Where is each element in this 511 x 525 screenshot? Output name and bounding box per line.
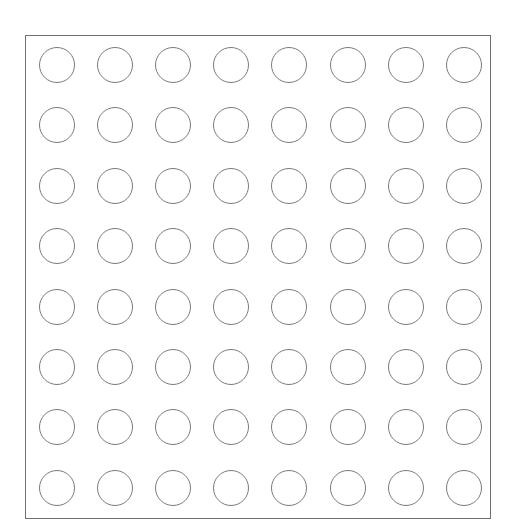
grid-cell-r2-c7[interactable] [388, 107, 424, 143]
grid-cell-r5-c4[interactable] [213, 289, 249, 325]
grid-cell-r8-c2[interactable] [97, 470, 133, 506]
grid-cell-r5-c2[interactable] [97, 289, 133, 325]
grid-cell-r1-c3[interactable] [155, 47, 191, 83]
grid-cell-r7-c5[interactable] [271, 409, 307, 445]
grid-cell-r4-c8[interactable] [446, 228, 482, 264]
grid-cell-r2-c8[interactable] [446, 107, 482, 143]
grid-cell-r6-c1[interactable] [39, 349, 75, 385]
grid-cell-r8-c4[interactable] [213, 470, 249, 506]
grid-cell-r4-c6[interactable] [330, 228, 366, 264]
grid-cell-r3-c6[interactable] [330, 168, 366, 204]
grid-cell-r7-c1[interactable] [39, 409, 75, 445]
grid-cell-r7-c8[interactable] [446, 409, 482, 445]
grid-cell-r7-c7[interactable] [388, 409, 424, 445]
grid-cell-r1-c6[interactable] [330, 47, 366, 83]
grid-cell-r4-c4[interactable] [213, 228, 249, 264]
grid-cell-r3-c8[interactable] [446, 168, 482, 204]
grid-cell-r4-c5[interactable] [271, 228, 307, 264]
grid-cell-r6-c3[interactable] [155, 349, 191, 385]
grid-cell-r6-c4[interactable] [213, 349, 249, 385]
grid-cell-r3-c4[interactable] [213, 168, 249, 204]
grid-cell-r1-c4[interactable] [213, 47, 249, 83]
grid-cell-r4-c3[interactable] [155, 228, 191, 264]
grid-cell-r1-c2[interactable] [97, 47, 133, 83]
grid-cell-r8-c3[interactable] [155, 470, 191, 506]
grid-cell-r6-c6[interactable] [330, 349, 366, 385]
grid-cell-r2-c4[interactable] [213, 107, 249, 143]
grid-cell-r8-c5[interactable] [271, 470, 307, 506]
grid-cell-r5-c3[interactable] [155, 289, 191, 325]
grid-cell-r3-c7[interactable] [388, 168, 424, 204]
grid-cell-r7-c2[interactable] [97, 409, 133, 445]
grid-cell-r8-c8[interactable] [446, 470, 482, 506]
grid-cell-r1-c7[interactable] [388, 47, 424, 83]
grid-cell-r5-c5[interactable] [271, 289, 307, 325]
grid-cell-r4-c7[interactable] [388, 228, 424, 264]
grid-cell-r7-c6[interactable] [330, 409, 366, 445]
grid-cell-r3-c5[interactable] [271, 168, 307, 204]
grid-cell-r1-c5[interactable] [271, 47, 307, 83]
grid-cell-r1-c1[interactable] [39, 47, 75, 83]
grid-cell-r2-c1[interactable] [39, 107, 75, 143]
grid-cell-r3-c3[interactable] [155, 168, 191, 204]
grid-cell-r8-c6[interactable] [330, 470, 366, 506]
grid-cell-r5-c1[interactable] [39, 289, 75, 325]
grid-cell-r5-c6[interactable] [330, 289, 366, 325]
grid-cell-r8-c7[interactable] [388, 470, 424, 506]
grid-cell-r5-c8[interactable] [446, 289, 482, 325]
grid-cell-r3-c1[interactable] [39, 168, 75, 204]
grid-cell-r6-c7[interactable] [388, 349, 424, 385]
grid-cell-r2-c2[interactable] [97, 107, 133, 143]
grid-cell-r3-c2[interactable] [97, 168, 133, 204]
grid-cell-r2-c6[interactable] [330, 107, 366, 143]
grid-cell-r8-c1[interactable] [39, 470, 75, 506]
grid-cell-r6-c5[interactable] [271, 349, 307, 385]
circle-grid-board [25, 35, 491, 519]
grid-cell-r6-c2[interactable] [97, 349, 133, 385]
grid-cell-r2-c3[interactable] [155, 107, 191, 143]
grid-cell-r2-c5[interactable] [271, 107, 307, 143]
grid-cell-r7-c4[interactable] [213, 409, 249, 445]
grid-cell-r7-c3[interactable] [155, 409, 191, 445]
grid-cell-r4-c1[interactable] [39, 228, 75, 264]
grid-cell-r6-c8[interactable] [446, 349, 482, 385]
grid-cell-r1-c8[interactable] [446, 47, 482, 83]
grid-cell-r4-c2[interactable] [97, 228, 133, 264]
grid-cell-r5-c7[interactable] [388, 289, 424, 325]
